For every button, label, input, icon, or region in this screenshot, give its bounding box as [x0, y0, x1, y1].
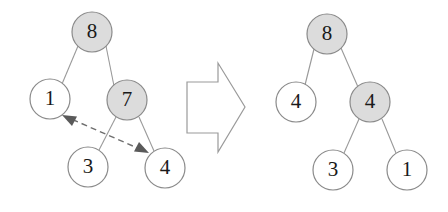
- edge-4-to-1: [382, 119, 396, 153]
- node-label: 1: [402, 157, 413, 181]
- after-tree-node-8[interactable]: 8: [307, 14, 347, 54]
- edge-7-to-3: [99, 117, 116, 150]
- double-headed-dashed-arrow-icon: [62, 115, 149, 153]
- before-tree-node-3[interactable]: 3: [68, 147, 108, 187]
- after-tree: 8 4 4 3 1: [276, 14, 427, 190]
- after-tree-node-1[interactable]: 1: [387, 150, 427, 190]
- edge-4-to-3: [344, 119, 359, 153]
- edge-8-to-4-left: [305, 49, 314, 85]
- after-tree-node-4-right[interactable]: 4: [350, 82, 390, 122]
- node-label: 3: [83, 154, 94, 178]
- before-tree-node-4[interactable]: 4: [145, 148, 185, 188]
- after-tree-node-3[interactable]: 3: [313, 150, 353, 190]
- node-label: 8: [87, 19, 98, 43]
- before-tree-node-1[interactable]: 1: [30, 79, 70, 119]
- node-label: 4: [160, 155, 171, 179]
- swap-arrow-head-right: [134, 142, 149, 153]
- node-label: 4: [291, 89, 302, 113]
- edge-8-to-1: [62, 46, 78, 84]
- before-tree: 8 1 7 3 4: [30, 12, 185, 188]
- swap-arrow-shaft: [69, 118, 142, 150]
- node-label: 1: [45, 86, 56, 110]
- swap-arrow-head-left: [62, 115, 77, 126]
- node-label: 8: [322, 21, 333, 45]
- node-label: 4: [365, 89, 376, 113]
- before-tree-node-8[interactable]: 8: [72, 12, 112, 52]
- block-arrow-right-icon: [187, 63, 245, 152]
- figure-canvas: 8 1 7 3 4: [0, 0, 448, 212]
- edge-8-to-4-right: [341, 48, 358, 87]
- tree-transformation-diagram: 8 1 7 3 4: [0, 0, 448, 212]
- node-label: 3: [328, 157, 339, 181]
- before-tree-node-7[interactable]: 7: [107, 80, 147, 120]
- edge-8-to-7: [106, 46, 114, 86]
- after-tree-node-4-left[interactable]: 4: [276, 82, 316, 122]
- node-label: 7: [122, 87, 133, 111]
